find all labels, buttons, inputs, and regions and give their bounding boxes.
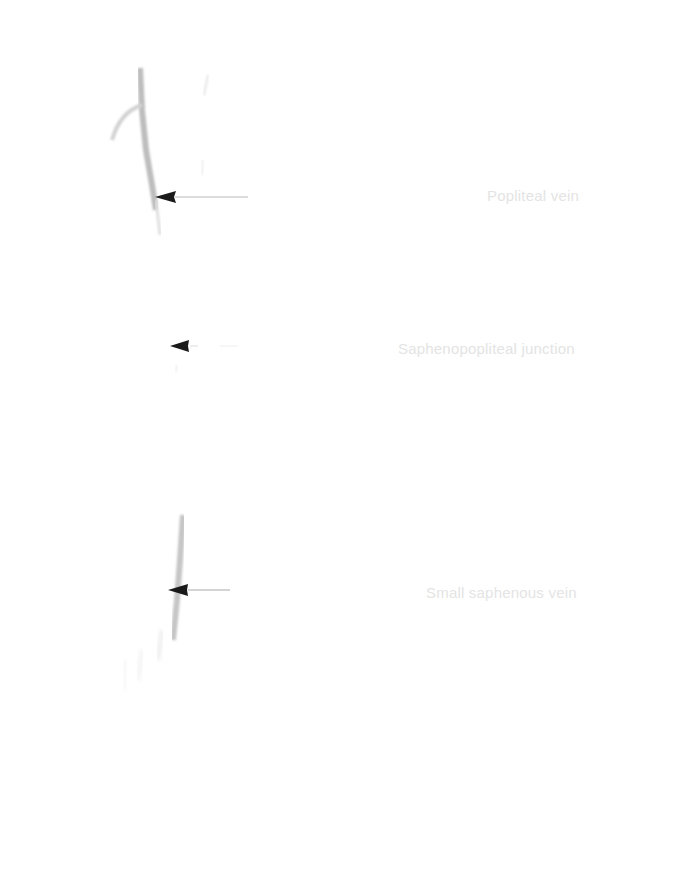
small-saphenous-vein-image <box>124 515 183 690</box>
popliteal-vein-image <box>112 68 208 235</box>
saphenopopliteal-junction-label: Saphenopopliteal junction <box>398 340 575 357</box>
ultrasound-figure: Popliteal vein Saphenopopliteal junction… <box>0 0 679 873</box>
junction-arrow-icon <box>170 340 238 352</box>
popliteal-arrow-icon <box>155 191 248 203</box>
junction-image <box>176 365 177 372</box>
small-saphenous-vein-label: Small saphenous vein <box>426 584 577 601</box>
popliteal-vein-label: Popliteal vein <box>487 187 579 204</box>
vein-illustration <box>0 0 679 873</box>
